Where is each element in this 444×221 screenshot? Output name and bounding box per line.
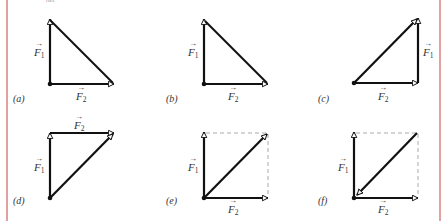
f2-label: F2 — [227, 203, 239, 217]
panel-label-c: (c) — [318, 93, 330, 105]
panel-d: F1 → F2 → (d) — [13, 112, 114, 207]
panel-label-b: (b) — [166, 93, 178, 105]
vector-arrow-glyph: → — [339, 154, 347, 163]
panel-label-e: (e) — [166, 195, 178, 207]
f2-label: F2 — [73, 119, 85, 133]
f1-label: F1 — [33, 161, 45, 175]
vector-arrow-glyph: → — [75, 112, 83, 121]
resultant-arrow — [354, 19, 417, 83]
f1-label: F1 — [422, 46, 434, 60]
reversed-resultant-arrow — [357, 133, 417, 195]
vector-arrow-glyph: → — [189, 154, 197, 163]
panel-label-a: (a) — [13, 93, 25, 105]
vector-arrow-glyph: → — [77, 83, 85, 92]
resultant-arrow — [50, 134, 113, 198]
f1-label: F1 — [337, 161, 349, 175]
panel-c: F1 → F2 → (c) — [318, 18, 434, 105]
panel-b: F1 → F2 → (b) — [166, 19, 268, 105]
panel-a: F1 → F2 → (a) — [13, 19, 114, 105]
origin-dot — [48, 196, 53, 201]
f2-label: F2 — [377, 203, 389, 217]
f2-label: F2 — [377, 90, 389, 104]
f2-label: F2 — [227, 90, 239, 104]
hypotenuse-line — [50, 20, 113, 83]
panel-f: F1 → F2 → (f) — [318, 132, 418, 217]
panel-label-d: (d) — [13, 195, 25, 207]
vector-arrow-glyph: → — [379, 196, 387, 205]
resultant-arrow — [204, 134, 267, 198]
panel-e: F1 → F2 → (e) — [166, 132, 268, 217]
origin-dot — [352, 81, 357, 86]
f1-label: F1 — [33, 46, 45, 60]
vector-arrow-glyph: → — [35, 154, 43, 163]
origin-dot — [48, 82, 53, 87]
vector-arrow-glyph: → — [379, 83, 387, 92]
hypotenuse-line — [205, 21, 267, 83]
origin-dot — [202, 196, 207, 201]
vector-arrow-glyph: → — [229, 83, 237, 92]
f1-label: F1 — [187, 161, 199, 175]
f2-label: F2 — [75, 90, 87, 104]
vector-arrow-glyph: → — [189, 39, 197, 48]
f1-label: F1 — [187, 46, 199, 60]
vector-arrow-glyph: → — [35, 39, 43, 48]
vector-arrow-glyph: → — [424, 39, 432, 48]
origin-dot — [352, 196, 357, 201]
origin-dot — [202, 82, 207, 87]
vector-arrow-glyph: → — [229, 196, 237, 205]
panel-label-f: (f) — [318, 195, 328, 207]
vector-addition-diagram: F1 → F2 → (a) F1 → F2 → (b) F1 → F2 → (c… — [0, 0, 444, 221]
